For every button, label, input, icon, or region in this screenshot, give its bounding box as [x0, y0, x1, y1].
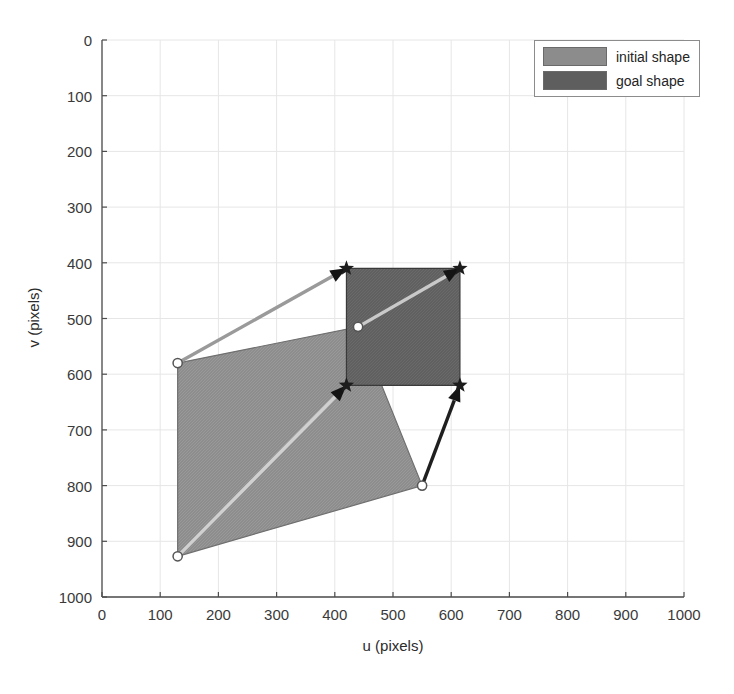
x-tick-label: 1000: [667, 606, 700, 623]
plot-canvas: [0, 0, 734, 694]
x-axis-title: u (pixels): [363, 637, 424, 654]
y-tick-label: 900: [30, 533, 92, 550]
legend-label-initial-shape: initial shape: [616, 49, 690, 65]
x-tick-label: 800: [555, 606, 580, 623]
legend-label-goal-shape: goal shape: [616, 73, 685, 89]
legend: initial shape goal shape: [534, 40, 700, 97]
y-tick-label: 700: [30, 421, 92, 438]
x-tick-label: 500: [380, 606, 405, 623]
y-tick-label: 600: [30, 366, 92, 383]
x-tick-label: 700: [497, 606, 522, 623]
y-tick-label: 100: [30, 87, 92, 104]
y-tick-label: 800: [30, 477, 92, 494]
legend-item-goal-shape: goal shape: [543, 71, 690, 90]
x-tick-label: 300: [264, 606, 289, 623]
y-tick-label: 400: [30, 254, 92, 271]
legend-swatch-initial-shape: [543, 47, 607, 66]
x-tick-label: 200: [206, 606, 231, 623]
legend-swatch-goal-shape: [543, 71, 607, 90]
y-axis-title: v (pixels): [25, 272, 42, 362]
y-tick-label: 0: [30, 32, 92, 49]
y-tick-label: 200: [30, 143, 92, 160]
x-tick-label: 0: [98, 606, 106, 623]
legend-item-initial-shape: initial shape: [543, 47, 690, 66]
x-tick-label: 600: [439, 606, 464, 623]
x-tick-label: 400: [322, 606, 347, 623]
x-tick-label: 900: [613, 606, 638, 623]
x-tick-label: 100: [148, 606, 173, 623]
chart-root: 0100200300400500600700800900100001002003…: [0, 0, 734, 694]
y-tick-label: 300: [30, 199, 92, 216]
y-tick-label: 1000: [30, 589, 92, 606]
